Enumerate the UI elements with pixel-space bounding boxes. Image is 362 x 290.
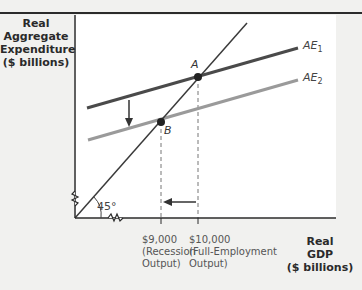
tick-9000-note1: (Recession xyxy=(142,246,196,258)
tick-9000-note2: Output) xyxy=(142,258,196,270)
ae1-label: AE1 xyxy=(303,39,323,54)
ae2-label-sub: 2 xyxy=(317,77,322,86)
left-arrow-icon xyxy=(163,198,172,206)
ae1-label-text: AE xyxy=(303,39,317,52)
point-a-marker xyxy=(194,73,202,81)
y-axis-label-line2: Aggregate xyxy=(0,30,72,43)
down-arrow-icon xyxy=(125,118,133,127)
y-axis-label: Real Aggregate Expenditure ($ billions) xyxy=(0,17,72,69)
y-axis-label-line3: Expenditure xyxy=(0,43,72,56)
tick-label-10000: $10,000 (Full-Employment Output) xyxy=(189,234,277,270)
ae2-label-text: AE xyxy=(303,71,317,84)
angle-label: 45° xyxy=(97,200,117,213)
x-axis-label: Real GDP ($ billions) xyxy=(278,235,362,274)
tick-10000-note2: Output) xyxy=(189,258,277,270)
ae1-line xyxy=(87,48,298,108)
x-axis-label-line3: ($ billions) xyxy=(278,261,362,274)
tick-10000-value: $10,000 xyxy=(189,234,277,246)
ae2-line xyxy=(88,80,298,140)
point-a-label: A xyxy=(191,58,199,71)
ae1-label-sub: 1 xyxy=(317,45,322,54)
x-axis-label-line1: Real xyxy=(278,235,362,248)
x-axis-label-line2: GDP xyxy=(278,248,362,261)
y-axis-break-icon xyxy=(72,191,78,206)
tick-10000-note1: (Full-Employment xyxy=(189,246,277,258)
ae2-label: AE2 xyxy=(303,71,323,86)
y-axis-label-line4: ($ billions) xyxy=(0,56,72,69)
tick-9000-value: $9,000 xyxy=(142,234,196,246)
y-axis-label-line1: Real xyxy=(0,17,72,30)
tick-label-9000: $9,000 (Recession Output) xyxy=(142,234,196,270)
point-b-label: B xyxy=(164,124,172,137)
